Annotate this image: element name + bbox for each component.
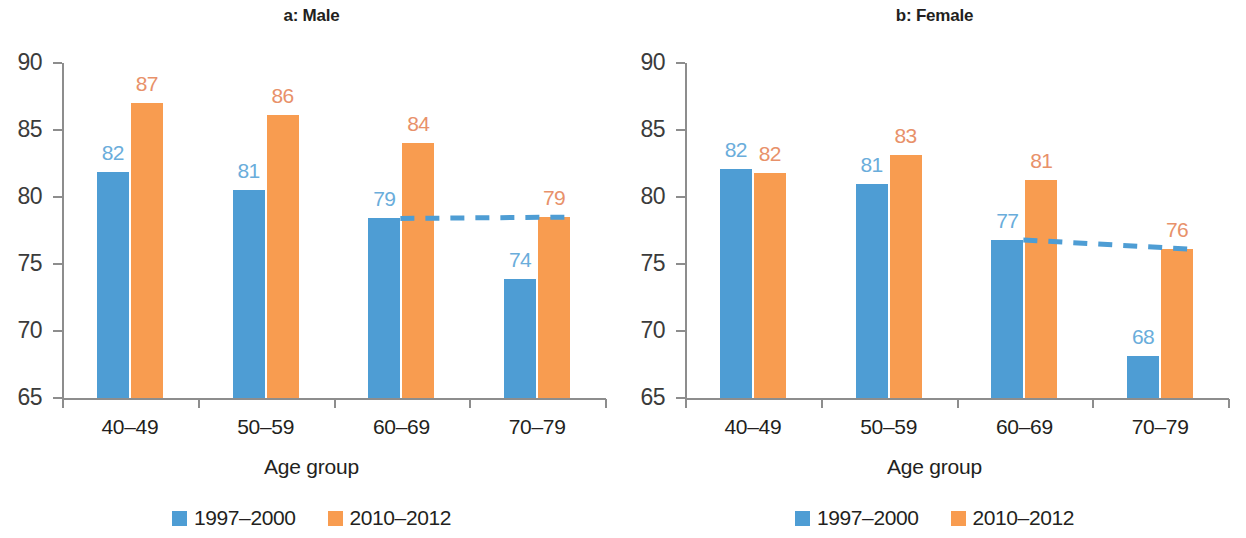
x-axis-tick	[62, 399, 64, 408]
bar	[890, 155, 922, 398]
plot-area-female: 657075808590 40–4950–5960–6970–79 828281…	[685, 63, 1228, 398]
legend-item: 2010–2012	[328, 506, 452, 530]
legend-male: 1997–20002010–2012	[0, 506, 623, 530]
y-axis-tick-label: 85	[640, 116, 665, 143]
bar	[233, 190, 265, 398]
bar	[856, 184, 888, 398]
legend-swatch-icon	[795, 511, 810, 526]
y-axis-tick: 85	[676, 129, 685, 131]
legend-label: 1997–2000	[817, 506, 919, 530]
legend-label: 2010–2012	[973, 506, 1075, 530]
y-axis-tick-label: 90	[17, 49, 42, 76]
y-axis-tick-label: 70	[17, 317, 42, 344]
panel-female: b: Female 657075808590 40–4950–5960–6970…	[623, 0, 1246, 538]
y-axis-tick-label: 80	[640, 183, 665, 210]
bar	[1161, 249, 1193, 398]
bar	[1025, 180, 1057, 398]
x-axis-title-female: Age group	[623, 455, 1246, 479]
bar-value-label: 82	[735, 142, 805, 166]
bar	[368, 218, 400, 398]
legend-item: 1997–2000	[172, 506, 296, 530]
x-axis-title-male: Age group	[0, 455, 623, 479]
legend-label: 2010–2012	[350, 506, 452, 530]
bar	[991, 240, 1023, 398]
bar-value-label: 86	[248, 84, 318, 108]
legend-item: 1997–2000	[795, 506, 919, 530]
bar-value-label: 79	[519, 186, 589, 210]
legend-label: 1997–2000	[194, 506, 296, 530]
y-axis-tick: 85	[53, 129, 62, 131]
bar	[504, 279, 536, 398]
bar	[267, 115, 299, 398]
x-axis-category-label: 60–69	[954, 415, 1094, 439]
panel-title-female: b: Female	[623, 6, 1246, 26]
y-axis-tick: 90	[53, 62, 62, 64]
bar	[402, 143, 434, 398]
legend-swatch-icon	[951, 511, 966, 526]
bar	[754, 173, 786, 398]
y-axis-tick: 65	[53, 397, 62, 399]
x-axis-category-label: 40–49	[60, 415, 200, 439]
x-axis-tick	[469, 399, 471, 408]
bar-value-label: 83	[871, 124, 941, 148]
y-axis-tick-label: 85	[17, 116, 42, 143]
y-axis-tick-label: 75	[17, 250, 42, 277]
y-axis-tick-label: 65	[640, 384, 665, 411]
y-axis-tick: 75	[53, 263, 62, 265]
bar	[720, 169, 752, 398]
x-axis-category-label: 40–49	[683, 415, 823, 439]
legend-female: 1997–20002010–2012	[623, 506, 1246, 530]
y-axis-tick: 80	[53, 196, 62, 198]
bar	[97, 172, 129, 398]
y-axis-tick-label: 75	[640, 250, 665, 277]
x-axis-tick	[605, 399, 607, 408]
y-axis-tick-label: 65	[17, 384, 42, 411]
x-axis-category-label: 50–59	[196, 415, 336, 439]
y-axis-tick-label: 90	[640, 49, 665, 76]
x-axis-category-label: 70–79	[467, 415, 607, 439]
bar	[131, 103, 163, 398]
y-axis-line	[62, 63, 64, 399]
x-axis-category-label: 60–69	[331, 415, 471, 439]
bar-value-label: 81	[1006, 149, 1076, 173]
x-axis-tick	[1092, 399, 1094, 408]
legend-item: 2010–2012	[951, 506, 1075, 530]
x-axis-tick	[198, 399, 200, 408]
y-axis-line	[685, 63, 687, 399]
y-axis-tick: 80	[676, 196, 685, 198]
x-axis-category-label: 70–79	[1090, 415, 1230, 439]
x-axis-tick	[1228, 399, 1230, 408]
x-axis-tick	[334, 399, 336, 408]
panel-title-male: a: Male	[0, 6, 623, 26]
y-axis-tick-label: 70	[640, 317, 665, 344]
figure-container: a: Male 657075808590 40–4950–5960–6970–7…	[0, 0, 1246, 538]
legend-swatch-icon	[172, 511, 187, 526]
y-axis-tick: 75	[676, 263, 685, 265]
x-axis-tick	[685, 399, 687, 408]
x-axis-tick	[821, 399, 823, 408]
bar	[538, 217, 570, 398]
y-axis-tick: 90	[676, 62, 685, 64]
y-axis-tick: 65	[676, 397, 685, 399]
plot-area-male: 657075808590 40–4950–5960–6970–79 828781…	[62, 63, 605, 398]
y-axis-tick: 70	[676, 330, 685, 332]
bar-value-label: 84	[383, 112, 453, 136]
bar-value-label: 87	[112, 72, 182, 96]
bar	[1127, 356, 1159, 398]
bar-value-label: 76	[1142, 218, 1212, 242]
legend-swatch-icon	[328, 511, 343, 526]
x-axis-tick	[957, 399, 959, 408]
x-axis-category-label: 50–59	[819, 415, 959, 439]
panel-male: a: Male 657075808590 40–4950–5960–6970–7…	[0, 0, 623, 538]
y-axis-tick-label: 80	[17, 183, 42, 210]
y-axis-tick: 70	[53, 330, 62, 332]
